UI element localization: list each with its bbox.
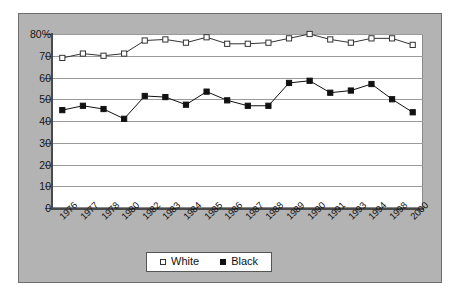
data-point-black [369,81,374,86]
data-point-black [122,116,127,121]
chart-figure: 80%706050403020100 197619771978198019821… [18,13,442,283]
data-point-black [183,102,188,107]
data-point-white [410,42,415,47]
data-point-white [389,36,394,41]
legend-label-white: White [171,256,199,267]
data-point-black [225,98,230,103]
data-point-black [307,78,312,83]
data-point-black [286,80,291,85]
data-point-white [286,36,291,41]
data-point-black [101,106,106,111]
data-point-white [225,41,230,46]
series-line-white [62,34,412,58]
filled-square-icon [220,259,226,265]
data-point-black [389,97,394,102]
data-point-black [266,103,271,108]
data-point-black [348,88,353,93]
legend-item-black: Black [220,256,258,267]
data-point-black [204,89,209,94]
data-point-black [142,93,147,98]
data-point-black [60,108,65,113]
legend-label-black: Black [231,256,258,267]
data-point-black [245,103,250,108]
data-point-white [142,38,147,43]
data-point-white [307,31,312,36]
chart-legend: White Black [146,252,272,272]
data-point-black [410,110,415,115]
data-point-black [328,90,333,95]
data-point-white [163,37,168,42]
data-point-white [101,53,106,58]
data-series-layer [19,14,443,284]
data-point-white [122,51,127,56]
data-point-white [328,37,333,42]
data-point-white [60,55,65,60]
data-point-white [183,40,188,45]
data-point-white [348,40,353,45]
data-point-white [204,35,209,40]
legend-item-white: White [160,256,199,267]
data-point-white [245,41,250,46]
data-point-black [163,94,168,99]
open-square-icon [160,259,166,265]
data-point-black [80,103,85,108]
data-point-white [80,51,85,56]
series-line-black [62,81,412,119]
data-point-white [266,40,271,45]
data-point-white [369,36,374,41]
